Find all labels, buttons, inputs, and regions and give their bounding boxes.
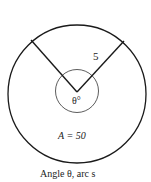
left-radius [31,40,77,92]
caption: Angle θ, arc s [40,168,95,179]
area-label: A = 50 [58,130,86,141]
angle-label: θ° [72,95,81,106]
outer-circle [8,25,146,163]
radius-label: 5 [93,50,99,62]
circle-sector-diagram [0,0,151,182]
right-radius [77,41,124,92]
